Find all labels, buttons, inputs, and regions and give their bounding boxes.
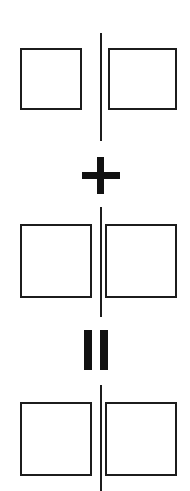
first-term-right-square-label	[110, 50, 111, 51]
second-term-right-square[interactable]	[105, 224, 177, 298]
second-term-divider	[100, 207, 102, 317]
equals-icon-second-bar	[100, 330, 108, 370]
equation-row-result-term	[0, 380, 190, 491]
first-term-right-square[interactable]	[108, 48, 177, 110]
result-term-right-square-label	[107, 404, 108, 405]
result-term-left-square-label	[22, 404, 23, 405]
second-term-right-square-label	[107, 226, 108, 227]
first-term-left-square-label	[22, 50, 23, 51]
result-term-divider	[100, 385, 102, 491]
second-term-left-square-label	[22, 226, 23, 227]
equation-row-second-term	[0, 200, 190, 325]
first-term-divider	[100, 33, 102, 141]
equation-row-first-term	[0, 0, 190, 150]
equals-icon-first-bar	[84, 330, 92, 370]
result-term-left-square[interactable]	[20, 402, 92, 476]
result-term-right-square[interactable]	[105, 402, 177, 476]
plus-icon-vertical-stroke	[97, 157, 104, 194]
first-term-left-square[interactable]	[20, 48, 82, 110]
second-term-left-square[interactable]	[20, 224, 92, 298]
diagram-canvas: + =	[0, 0, 190, 491]
